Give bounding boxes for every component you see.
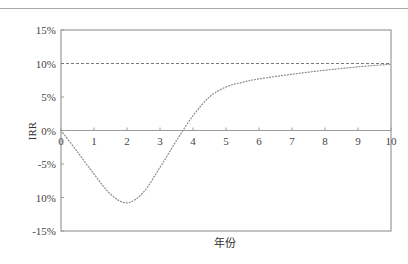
x-tick-label: 9 [355, 135, 361, 147]
y-tick-label: 0% [41, 125, 56, 137]
x-tick-label: 3 [157, 135, 163, 147]
x-tick-label: 4 [190, 135, 196, 147]
y-tick-label: 10% [36, 58, 56, 70]
x-tick-label: 0 [58, 135, 64, 147]
y-tick-label: -15% [32, 225, 56, 237]
y-tick-label: 10% [36, 192, 56, 204]
x-axis-title: 年份 [214, 236, 236, 249]
y-tick-label: 5% [41, 91, 56, 103]
y-axis-title: IRR [26, 121, 38, 140]
x-tick-label: 2 [124, 135, 130, 147]
irr-chart: 15%10%5%0%-5%10%-15% 012345678910 IRR 年份 [0, 0, 408, 264]
y-tick-label: -5% [38, 158, 56, 170]
x-tick-label: 7 [289, 135, 295, 147]
x-tick-label: 5 [223, 135, 229, 147]
x-tick-label: 10 [386, 135, 398, 147]
x-tick-label: 8 [322, 135, 328, 147]
x-tick-label: 6 [256, 135, 262, 147]
y-tick-label: 15% [36, 24, 56, 36]
x-tick-label: 1 [91, 135, 97, 147]
